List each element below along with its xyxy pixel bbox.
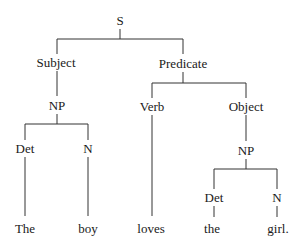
node-n-object: N — [272, 191, 281, 204]
node-det-object: Det — [205, 191, 224, 204]
node-object-np: NP — [238, 144, 255, 157]
word-loves: loves — [137, 222, 164, 235]
word-the: The — [15, 222, 35, 235]
word-girl: girl. — [267, 222, 288, 235]
node-subject-np: NP — [49, 99, 66, 112]
node-object: Object — [229, 100, 264, 113]
node-n-subject: N — [83, 142, 92, 155]
node-s: S — [116, 14, 123, 27]
word-the-2: the — [204, 222, 220, 235]
node-det-subject: Det — [16, 142, 35, 155]
node-predicate: Predicate — [159, 57, 207, 70]
word-boy: boy — [78, 222, 98, 235]
node-verb: Verb — [140, 100, 165, 113]
tree-lines — [0, 0, 300, 248]
node-subject: Subject — [37, 56, 76, 69]
